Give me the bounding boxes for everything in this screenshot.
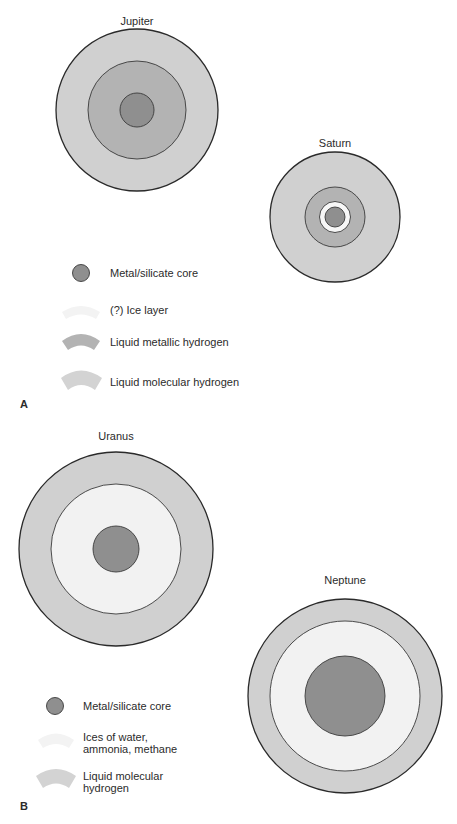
legend-a-ice-label: (?) Ice layer [110, 304, 168, 316]
neptune-core [305, 656, 385, 736]
legend-a-metallic-hydrogen-label: Liquid metallic hydrogen [110, 336, 229, 348]
jupiter-diagram [56, 29, 218, 191]
legend-a-core-label: Metal/silicate core [110, 267, 198, 279]
legend-a-ice-swatch-icon [62, 306, 100, 319]
uranus-diagram [19, 452, 213, 646]
legend-a-core-swatch-icon [73, 265, 90, 282]
legend-b-ice-label-line1: Ices of water, [83, 731, 148, 743]
neptune-label: Neptune [324, 574, 366, 586]
legend-b-molecular-hydrogen-label-line1: Liquid molecular [83, 770, 163, 782]
legend-b-molecular-hydrogen-swatch-icon [36, 769, 76, 788]
legend-b-ice-swatch-icon [38, 734, 74, 749]
legend-a-molecular-hydrogen-swatch-icon [61, 371, 102, 391]
legend-b-core-swatch-icon [47, 698, 64, 715]
legend-a-molecular-hydrogen-label: Liquid molecular hydrogen [110, 376, 239, 388]
neptune-diagram [248, 599, 442, 793]
legend-b-molecular-hydrogen-label-line2: hydrogen [83, 782, 129, 794]
jupiter-label: Jupiter [120, 15, 153, 27]
legend-b-core-label: Metal/silicate core [83, 700, 171, 712]
jupiter-core [120, 93, 154, 127]
uranus-core [93, 526, 139, 572]
saturn-core [325, 207, 345, 227]
planet-interiors-diagram [0, 0, 457, 824]
saturn-diagram [270, 152, 400, 282]
panel-a-letter: A [20, 398, 28, 410]
saturn-label: Saturn [319, 137, 351, 149]
uranus-label: Uranus [98, 430, 133, 442]
legend-b-ice-label-line2: ammonia, methane [83, 743, 177, 755]
panel-b-letter: B [20, 800, 28, 812]
legend-a-metallic-hydrogen-swatch-icon [62, 334, 100, 350]
